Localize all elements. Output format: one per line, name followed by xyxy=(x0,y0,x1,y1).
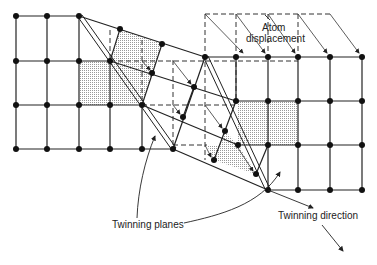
atom-displacement-label-line2: displacement xyxy=(246,33,305,44)
twinning-direction-label: Twinning direction xyxy=(278,210,358,221)
atom-displacement-label-line1: Atom xyxy=(262,22,285,33)
twinning-planes-label: Twinning planes xyxy=(112,219,184,230)
twinning-diagram xyxy=(0,0,377,265)
